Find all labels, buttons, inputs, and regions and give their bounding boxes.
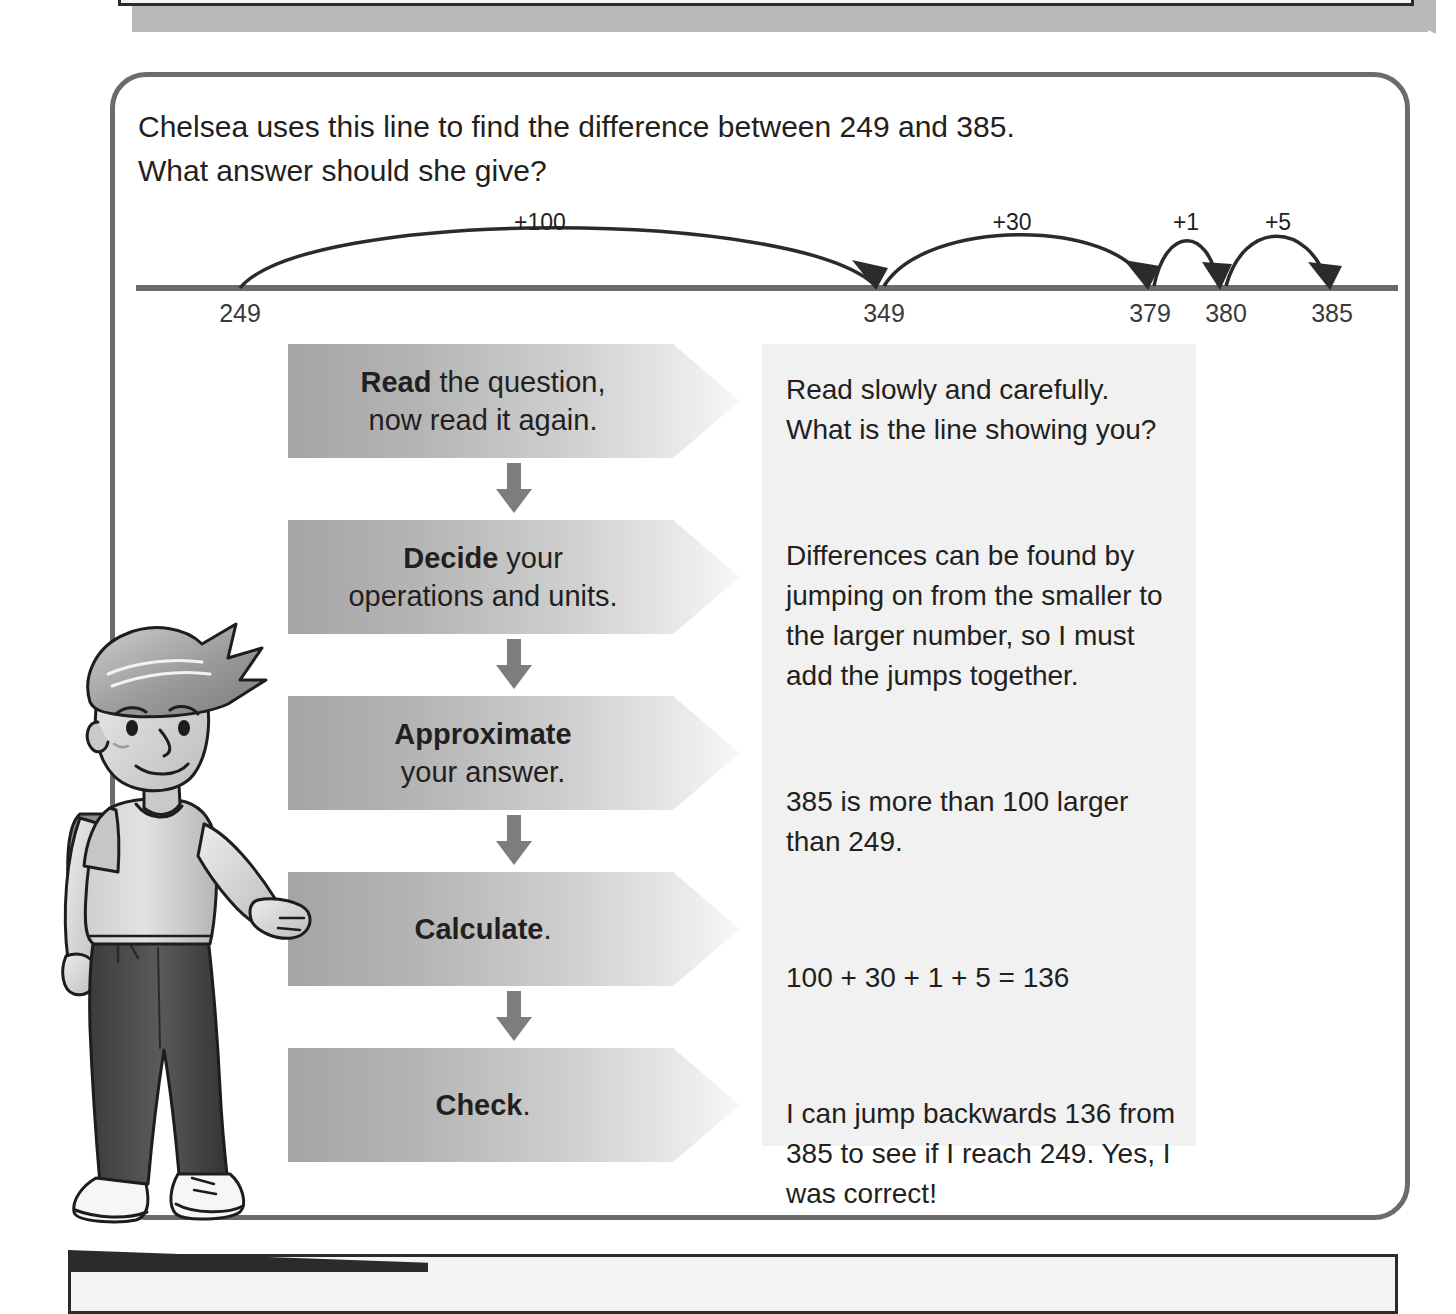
flow-connector-1 [288, 458, 740, 520]
flow-step-decide: Decide your operations and units. [288, 520, 740, 634]
jump-label-100: +100 [514, 209, 566, 235]
jump-label-1: +1 [1173, 209, 1199, 235]
flow-step-keyword: Approximate [394, 718, 571, 750]
tick-label-349: 349 [863, 299, 905, 327]
flow-step-approximate: Approximate your answer. [288, 696, 740, 810]
flow-step-read: Read the question, now read it again. [288, 344, 740, 458]
number-line-diagram: +100 +30 +1 +5 249 349 379 380 385 [136, 200, 1398, 330]
top-box-face [118, 0, 1414, 6]
flow-step-label: Calculate. [288, 872, 678, 986]
commentary-paragraph-2: Differences can be found by jumping on f… [786, 536, 1178, 696]
flow-step-rest: . [543, 913, 551, 945]
jump-arc-30 [884, 235, 1146, 286]
tick-label-385: 385 [1311, 299, 1353, 327]
flow-step-label: Check. [288, 1048, 678, 1162]
flow-step-keyword: Read [360, 366, 431, 398]
flow-step-label: Read the question, now read it again. [288, 344, 678, 458]
question-text: Chelsea uses this line to find the diffe… [138, 105, 1318, 193]
flow-step-rest: . [522, 1089, 530, 1121]
flow-step-rest: your [498, 542, 562, 574]
commentary-paragraph-1: Read slowly and carefully. What is the l… [786, 370, 1178, 450]
down-arrow-icon [494, 639, 534, 691]
commentary-panel: Read slowly and carefully. What is the l… [762, 344, 1196, 1146]
flow-step-line2: now read it again. [369, 401, 598, 439]
top-box-shadow-bottom [132, 6, 1428, 32]
flow-step-keyword: Decide [403, 542, 498, 574]
flow-connector-3 [288, 810, 740, 872]
flow-step-rest: the question, [431, 366, 605, 398]
commentary-paragraph-5: I can jump backwards 136 from 385 to see… [786, 1094, 1178, 1214]
jump-label-5: +5 [1265, 209, 1291, 235]
flow-step-label: Decide your operations and units. [288, 520, 678, 634]
flow-connector-2 [288, 634, 740, 696]
flow-step-line2: your answer. [401, 753, 565, 791]
down-arrow-icon [494, 815, 534, 867]
jump-arc-100 [240, 228, 876, 288]
eye-left [126, 720, 138, 736]
jump-arc-5 [1226, 236, 1328, 286]
flow-step-calculate: Calculate. [288, 872, 740, 986]
commentary-paragraph-3: 385 is more than 100 larger than 249. [786, 782, 1178, 862]
top-partial-box [118, 0, 1414, 8]
flow-step-check: Check. [288, 1048, 740, 1162]
commentary-calculation: 100 + 30 + 1 + 5 = 136 [786, 958, 1178, 998]
flow-step-line2: operations and units. [348, 577, 617, 615]
tick-label-380: 380 [1205, 299, 1247, 327]
boy-character-illustration [52, 618, 320, 1238]
question-line-1: Chelsea uses this line to find the diffe… [138, 105, 1318, 149]
down-arrow-icon [494, 463, 534, 515]
flow-step-keyword: Check [435, 1089, 522, 1121]
question-line-2: What answer should she give? [138, 149, 1318, 193]
jump-label-30: +30 [992, 209, 1031, 235]
bottom-partial-box [58, 1248, 1418, 1308]
flow-connector-4 [288, 986, 740, 1048]
flow-step-label: Approximate your answer. [288, 696, 678, 810]
down-arrow-icon [494, 991, 534, 1043]
flow-step-keyword: Calculate [414, 913, 543, 945]
eye-right [178, 720, 190, 736]
tick-label-379: 379 [1129, 299, 1171, 327]
method-flowchart: Read the question, now read it again. De… [288, 344, 740, 1162]
tick-label-249: 249 [219, 299, 261, 327]
